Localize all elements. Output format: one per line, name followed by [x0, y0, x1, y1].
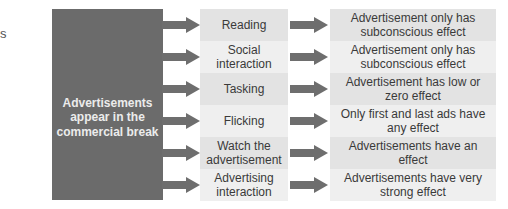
- activity-box: Reading: [200, 9, 288, 41]
- arrow-right-icon: [290, 49, 328, 65]
- effect-box: Advertisement only has subconscious effe…: [330, 41, 496, 73]
- arrow-right-icon: [162, 113, 200, 129]
- arrow-right-icon: [290, 145, 328, 161]
- arrow-right-icon: [290, 17, 328, 33]
- activity-box: Watch the advertisement: [200, 137, 288, 169]
- effect-box: Only first and last ads have any effect: [330, 105, 496, 137]
- arrow-right-icon: [162, 17, 200, 33]
- flow-row: Flicking Only first and last ads have an…: [0, 105, 508, 137]
- arrow-right-icon: [162, 177, 200, 193]
- effect-label: Advertisement only has subconscious effe…: [334, 43, 492, 72]
- arrow-right-icon: [290, 113, 328, 129]
- flow-row: Watch the advertisement Advertisements h…: [0, 137, 508, 169]
- activity-box: Advertising interaction: [200, 169, 288, 201]
- effect-label: Advertisement only has subconscious effe…: [334, 11, 492, 40]
- flow-row: Social interaction Advertisement only ha…: [0, 41, 508, 73]
- activity-label: Advertising interaction: [200, 171, 288, 200]
- effect-box: Advertisement has low or zero effect: [330, 73, 496, 105]
- flow-row: Tasking Advertisement has low or zero ef…: [0, 73, 508, 105]
- activity-box: Tasking: [200, 73, 288, 105]
- effect-label: Advertisements have an effect: [334, 139, 492, 168]
- flow-row: Reading Advertisement only has subconsci…: [0, 9, 508, 41]
- activity-label: Social interaction: [200, 43, 288, 72]
- activity-label: Watch the advertisement: [200, 139, 288, 168]
- activity-box: Social interaction: [200, 41, 288, 73]
- activity-box: Flicking: [200, 105, 288, 137]
- flow-row: Advertising interaction Advertisements h…: [0, 169, 508, 201]
- activity-label: Flicking: [224, 114, 265, 128]
- arrow-right-icon: [290, 177, 328, 193]
- effect-label: Advertisement has low or zero effect: [334, 75, 492, 104]
- effect-label: Advertisements have very strong effect: [334, 171, 492, 200]
- arrow-right-icon: [290, 81, 328, 97]
- arrow-right-icon: [162, 49, 200, 65]
- effect-label: Only first and last ads have any effect: [334, 107, 492, 136]
- effect-box: Advertisements have an effect: [330, 137, 496, 169]
- effect-box: Advertisements have very strong effect: [330, 169, 496, 201]
- effect-box: Advertisement only has subconscious effe…: [330, 9, 496, 41]
- activity-label: Reading: [222, 18, 267, 32]
- arrow-right-icon: [162, 145, 200, 161]
- activity-label: Tasking: [224, 82, 265, 96]
- arrow-right-icon: [162, 81, 200, 97]
